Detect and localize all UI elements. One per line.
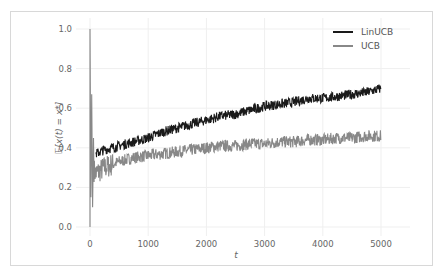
x-tick-label: 1000	[137, 239, 159, 249]
y-tick-label: 0.8	[58, 64, 72, 74]
y-tick-label: 0.0	[58, 222, 72, 232]
line-chart: 0.00.20.40.60.81.0 010002000300040005000…	[0, 0, 441, 278]
data-series	[90, 29, 381, 227]
x-axis-label: t	[234, 250, 238, 260]
y-tick-label: 1.0	[58, 24, 72, 34]
x-tick-label: 3000	[254, 239, 276, 249]
legend-label-ucb: UCB	[361, 41, 380, 51]
x-tick-label: 5000	[370, 239, 392, 249]
x-tick-label: 4000	[312, 239, 334, 249]
legend-label-linucb: LinUCB	[361, 27, 393, 37]
y-axis-label: 𝔼[x(t) = x*]	[54, 101, 64, 154]
legend: LinUCB UCB	[333, 27, 393, 51]
x-tick-label: 2000	[196, 239, 218, 249]
series-line-ucb	[90, 29, 381, 227]
x-tick-label: 0	[87, 239, 92, 249]
grid-lines	[76, 18, 410, 236]
x-axis-ticks: 010002000300040005000	[87, 239, 392, 249]
y-tick-label: 0.2	[58, 182, 72, 192]
